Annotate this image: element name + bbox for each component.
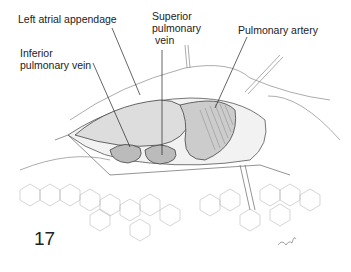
label-superior-pulmonary-vein-1: Superior [152, 10, 192, 22]
label-left-atrial-appendage: Left atrial appendage [18, 13, 117, 25]
figure-number: 17 [34, 228, 55, 250]
label-superior-pulmonary-vein-2: pulmonary [152, 22, 201, 34]
label-inferior-pulmonary-vein-2: pulmonary vein [20, 59, 91, 71]
label-superior-pulmonary-vein-3: vein [155, 34, 174, 46]
label-pulmonary-artery: Pulmonary artery [238, 24, 318, 36]
label-inferior-pulmonary-vein-1: Inferior [20, 47, 53, 59]
